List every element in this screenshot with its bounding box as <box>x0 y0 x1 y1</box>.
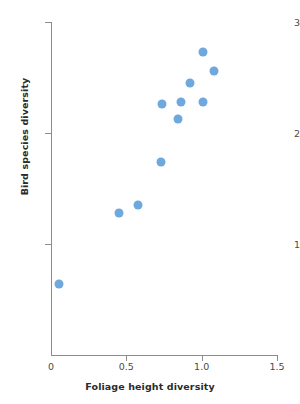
data-point <box>54 279 63 288</box>
data-point <box>199 97 208 106</box>
scatter-plot: 123 00.51.01.5 Foliage height diversity … <box>0 0 300 404</box>
data-point <box>176 97 185 106</box>
data-point <box>199 47 208 56</box>
data-point <box>156 157 165 166</box>
y-axis-title: Bird species diversity <box>19 67 30 207</box>
data-point <box>185 79 194 88</box>
x-axis-title: Foliage height diversity <box>0 381 300 392</box>
data-point <box>158 100 167 109</box>
data-point <box>209 66 218 75</box>
data-point <box>114 208 123 217</box>
data-point <box>134 201 143 210</box>
data-points-layer <box>0 0 300 404</box>
data-point <box>173 114 182 123</box>
